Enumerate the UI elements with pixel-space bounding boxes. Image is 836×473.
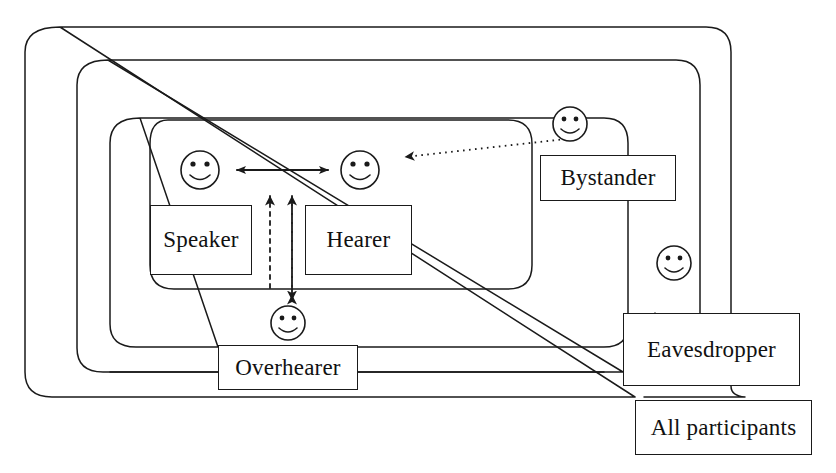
role-box-bystander[interactable]: Bystander <box>540 155 676 201</box>
role-label-speaker: Speaker <box>163 227 238 253</box>
role-box-all-participants[interactable]: All participants <box>635 400 812 455</box>
diagram-canvas: Speaker Hearer Bystander Overhearer Eave… <box>0 0 836 473</box>
role-label-eavesdropper: Eavesdropper <box>647 337 776 363</box>
role-label-overhearer: Overhearer <box>235 355 340 381</box>
role-box-hearer[interactable]: Hearer <box>305 205 412 275</box>
role-label-all-participants: All participants <box>651 415 797 441</box>
hearer-smiley-icon <box>341 151 379 189</box>
speaker-smiley-icon <box>181 151 219 189</box>
role-box-speaker[interactable]: Speaker <box>150 205 252 275</box>
role-label-bystander: Bystander <box>560 165 655 191</box>
bystander-smiley-icon <box>553 107 587 141</box>
smiley-faces-group <box>181 107 691 340</box>
overhearer-smiley-icon <box>271 306 305 340</box>
role-box-eavesdropper[interactable]: Eavesdropper <box>623 313 800 386</box>
eavesdropper-smiley-icon <box>657 246 691 280</box>
role-label-hearer: Hearer <box>327 227 391 253</box>
role-box-overhearer[interactable]: Overhearer <box>218 345 358 390</box>
